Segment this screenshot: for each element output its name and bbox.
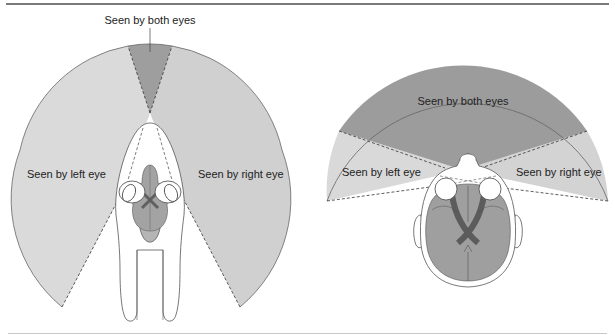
- label-right-eye-left: Seen by right eye: [198, 168, 284, 180]
- bottom-rule: [8, 333, 607, 334]
- visual-field-diagram: Seen by both eyes Seen by left eye Seen …: [0, 0, 615, 335]
- left-panel-horse: Seen by both eyes Seen by left eye Seen …: [11, 14, 291, 321]
- label-both-eyes-right: Seen by both eyes: [417, 95, 509, 107]
- label-right-eye-right: Seen by right eye: [516, 166, 602, 178]
- label-left-eye-left: Seen by left eye: [27, 168, 106, 180]
- label-both-eyes-left: Seen by both eyes: [104, 14, 196, 26]
- right-panel-human: Seen by both eyes Seen by left eye Seen …: [327, 65, 608, 287]
- label-left-eye-right: Seen by left eye: [342, 166, 421, 178]
- horse-head: [116, 123, 185, 321]
